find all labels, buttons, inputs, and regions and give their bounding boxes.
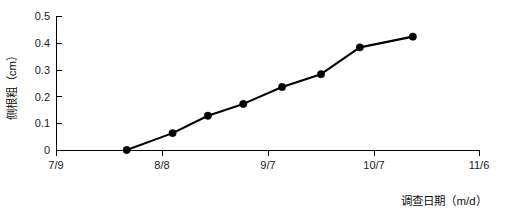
y-tick-label-0.5: 0.5 xyxy=(35,10,50,22)
data-point xyxy=(204,112,211,119)
data-point xyxy=(169,129,176,136)
y-tick-label-0.1: 0.1 xyxy=(35,117,50,129)
data-point xyxy=(409,33,416,40)
y-tick-label-0.3: 0.3 xyxy=(35,64,50,76)
y-tick-label-0: 0 xyxy=(44,144,50,156)
y-tick-label-0.4: 0.4 xyxy=(35,37,50,49)
x-tick-label-11-6: 11/6 xyxy=(469,159,490,171)
x-tick-label-10-7: 10/7 xyxy=(363,159,384,171)
data-point xyxy=(278,83,285,90)
data-point xyxy=(123,146,130,153)
line-chart: 0.5 0.4 0.3 0.2 0.1 0 7/9 8/8 9/7 10/7 1… xyxy=(0,0,519,223)
y-tick-label-0.2: 0.2 xyxy=(35,91,50,103)
data-point xyxy=(317,70,324,77)
y-axis-ticks xyxy=(57,17,62,124)
chart-svg: 0.5 0.4 0.3 0.2 0.1 0 7/9 8/8 9/7 10/7 1… xyxy=(0,0,519,223)
x-axis-title: 调查日期（m/d） xyxy=(401,194,486,207)
y-axis-title: 侧根粗（cm） xyxy=(5,50,18,120)
data-point xyxy=(356,44,363,51)
x-tick-label-7-9: 7/9 xyxy=(48,159,63,171)
x-tick-label-9-7: 9/7 xyxy=(260,159,275,171)
x-axis-ticks xyxy=(57,151,480,156)
x-tick-label-8-8: 8/8 xyxy=(154,159,169,171)
data-point xyxy=(240,100,247,107)
